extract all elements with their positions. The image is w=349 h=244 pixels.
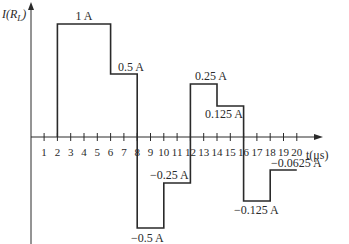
label-neg-0.125a: −0.125 A [234,203,279,217]
y-axis [28,2,34,244]
y-axis-arrow-icon [28,2,34,10]
label-0.5a: 0.5 A [118,60,144,74]
current-waveform [57,24,296,228]
x-tick-labels: 1 2 3 4 5 6 7 8 9 10 11 12 13 14 15 16 1… [41,146,302,158]
svg-text:4: 4 [81,146,87,158]
svg-text:10: 10 [158,146,170,158]
label-neg-0.25a: −0.25 A [150,168,189,182]
x-axis-arrow-icon [314,134,323,140]
svg-text:6: 6 [108,146,114,158]
svg-text:13: 13 [198,146,210,158]
label-1a: 1 A [75,9,92,23]
svg-text:9: 9 [148,146,154,158]
svg-text:17: 17 [251,146,263,158]
y-axis-label: I(RL) [1,7,26,23]
svg-text:5: 5 [95,146,101,158]
svg-text:14: 14 [212,146,224,158]
svg-text:11: 11 [172,146,183,158]
label-0.125a: 0.125 A [205,107,243,121]
value-labels: 1 A 0.5 A −0.5 A −0.25 A 0.25 A 0.125 A … [75,9,322,244]
label-0.25a: 0.25 A [195,69,227,83]
label-neg-0.5a: −0.5 A [131,231,164,244]
svg-text:15: 15 [225,146,237,158]
svg-text:2: 2 [55,146,61,158]
svg-text:7: 7 [121,146,127,158]
step-current-chart: I(RL) t(μs) 1 2 3 4 5 6 7 8 [0,0,349,244]
svg-text:3: 3 [68,146,74,158]
svg-text:1: 1 [41,146,47,158]
label-neg-0.0625a: −0.0625 A [271,156,322,170]
